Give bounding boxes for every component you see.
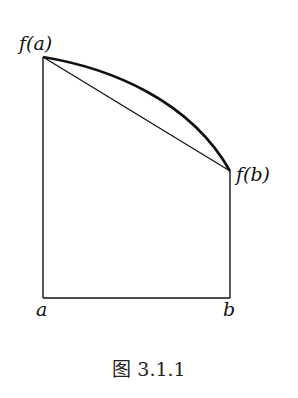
label-b: b [223,300,235,319]
label-fa: f(a) [19,34,52,53]
chord-line [43,57,230,171]
label-fb: f(b) [236,165,270,184]
figure-caption: 图 3.1.1 [0,360,298,379]
label-a: a [36,300,47,319]
diagram-canvas [0,0,298,398]
